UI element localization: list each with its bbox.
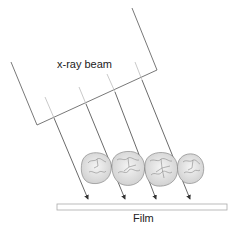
ray-1-inside	[45, 97, 54, 118]
beam-right-edge	[132, 8, 157, 70]
ray-2-inside	[79, 87, 86, 104]
teeth	[81, 151, 203, 186]
beam-label: x-ray beam	[57, 58, 112, 70]
tooth-3	[145, 152, 178, 186]
tooth-1	[81, 153, 111, 184]
film	[57, 204, 227, 210]
beam-left-edge	[11, 62, 37, 125]
beam-bottom-edge	[37, 70, 157, 125]
ray-1	[54, 118, 88, 199]
ray-2	[86, 104, 125, 199]
tooth-2	[112, 151, 145, 185]
film-label: Film	[133, 212, 154, 224]
ray-4-inside	[135, 62, 142, 80]
ray-3-inside	[107, 74, 115, 92]
tooth-4	[177, 154, 203, 184]
xray-diagram: x-ray beam Film	[0, 0, 233, 231]
